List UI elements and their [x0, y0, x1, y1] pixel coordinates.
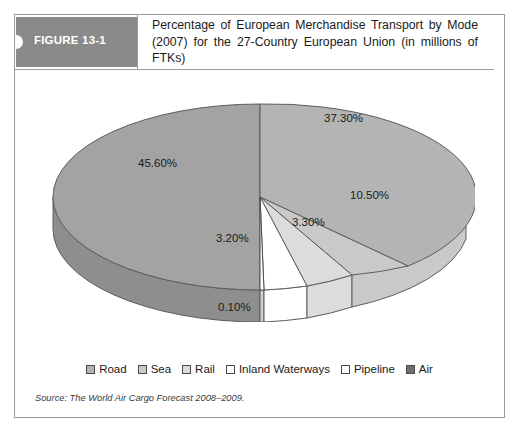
- figure-number-badge: FIGURE 13-1: [16, 17, 137, 67]
- legend-label-rail: Rail: [195, 363, 215, 375]
- legend-swatch-rail-icon: [182, 365, 191, 374]
- legend-label-road: Road: [99, 363, 127, 375]
- source-note: Source: The World Air Cargo Forecast 200…: [35, 393, 244, 403]
- legend-item-air[interactable]: Air: [406, 363, 433, 375]
- slice-label-air: 45.60%: [138, 157, 177, 169]
- legend-swatch-sea-icon: [138, 365, 147, 374]
- slice-label-pipeline: 0.10%: [218, 301, 251, 313]
- legend-label-pipeline: Pipeline: [354, 363, 395, 375]
- legend-item-sea[interactable]: Sea: [138, 363, 171, 375]
- legend-label-air: Air: [419, 363, 433, 375]
- pie-side-inland-waterways: [264, 286, 307, 322]
- figure-title: Percentage of European Merchandise Trans…: [138, 17, 494, 67]
- figure-frame: FIGURE 13-1 Percentage of European Merch…: [14, 14, 505, 418]
- legend-item-pipeline[interactable]: Pipeline: [341, 363, 395, 375]
- legend-swatch-pipeline-icon: [341, 365, 350, 374]
- figure-number-label: FIGURE 13-1: [34, 34, 106, 46]
- slice-label-rail: 3.30%: [292, 216, 325, 228]
- badge-notch-circle: [16, 35, 23, 49]
- slice-label-sea: 10.50%: [350, 189, 389, 201]
- pie-chart-area: 37.30% 45.60% 10.50% 3.30% 3.20% 0.10%: [15, 70, 504, 362]
- legend-swatch-road-icon: [86, 365, 95, 374]
- chart-legend: Road Sea Rail Inland Waterways Pipeline …: [15, 363, 504, 375]
- legend-label-sea: Sea: [151, 363, 171, 375]
- legend-item-road[interactable]: Road: [86, 363, 127, 375]
- legend-label-inland-waterways: Inland Waterways: [239, 363, 330, 375]
- slice-label-inland-waterways: 3.20%: [216, 232, 249, 244]
- legend-swatch-inland-waterways-icon: [226, 365, 235, 374]
- legend-item-inland-waterways[interactable]: Inland Waterways: [226, 363, 330, 375]
- figure-header: FIGURE 13-1 Percentage of European Merch…: [15, 15, 494, 70]
- legend-swatch-air-icon: [406, 365, 415, 374]
- slice-label-road: 37.30%: [324, 112, 363, 124]
- figure-title-container: Percentage of European Merchandise Trans…: [137, 15, 494, 69]
- pie-chart-svg: [45, 72, 475, 322]
- legend-item-rail[interactable]: Rail: [182, 363, 215, 375]
- pie-side-pipeline: [260, 290, 264, 322]
